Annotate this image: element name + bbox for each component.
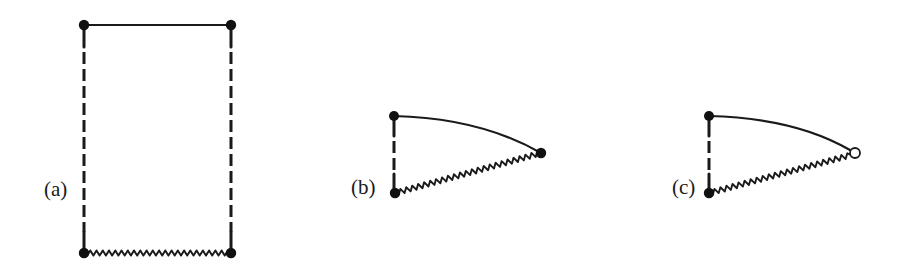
panel-c-top-curved-edge: [709, 116, 850, 150]
panel-b-label: (b): [351, 175, 376, 199]
panel-a-label: (a): [44, 177, 67, 201]
panel-c-vertex-bottom: [704, 188, 714, 198]
panel-b-lower-wavy-edge: [395, 151, 541, 194]
panel-b-vertex-right: [536, 148, 546, 158]
panel-a-vertex-bottom-right: [226, 248, 236, 258]
panel-c-lower-wavy-edge: [709, 153, 851, 194]
panel-a-vertex-top-right: [226, 20, 236, 30]
panel-c-vertex-right-open: [850, 148, 860, 158]
panel-a-vertex-bottom-left: [79, 248, 89, 258]
figure-canvas: (a) (b) (c): [0, 0, 899, 278]
panel-c-label: (c): [672, 175, 695, 199]
panel-a-bottom-wavy-edge: [84, 250, 231, 255]
panel-b-vertex-bottom: [390, 188, 400, 198]
panel-c: (c): [672, 111, 860, 199]
panel-a-vertex-top-left: [79, 20, 89, 30]
panel-b: (b): [351, 111, 546, 199]
panel-c-vertex-top: [704, 111, 714, 121]
panel-a: (a): [44, 20, 236, 258]
panel-b-vertex-top: [389, 111, 399, 121]
panel-b-top-curved-edge: [394, 116, 541, 153]
